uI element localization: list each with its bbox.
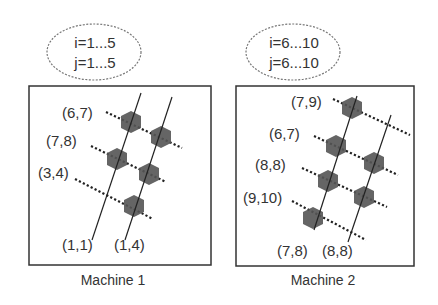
- point-label: (8,8): [255, 156, 286, 173]
- point-label: (6,7): [269, 125, 300, 142]
- solid-line: [92, 93, 141, 240]
- point-label: (7,8): [46, 132, 77, 149]
- solid-line: [348, 115, 391, 242]
- range-i-1: i=1...5: [74, 34, 115, 51]
- hexagon-node: [342, 97, 362, 119]
- point-label: (1,1): [62, 236, 93, 253]
- diagram-canvas: i=1...5 j=1...5 (6,7) (7,8) (3,4) (1,1) …: [0, 0, 438, 305]
- point-label: (9,10): [243, 189, 282, 206]
- point-label: (3,4): [38, 164, 69, 181]
- point-label: (7,9): [291, 93, 322, 110]
- machine-2: i=6...10 j=6...10 (7,9) (6,7) (8,8) (9,1…: [236, 24, 414, 288]
- point-label: (6,7): [62, 104, 93, 121]
- range-ellipse-2: [246, 24, 340, 80]
- range-j-1: j=1...5: [73, 54, 115, 71]
- solid-line: [314, 96, 357, 230]
- point-label: (7,8): [277, 242, 308, 259]
- hexagon-node: [364, 152, 384, 174]
- range-i-2: i=6...10: [269, 34, 319, 51]
- hexagon-node: [318, 170, 338, 192]
- range-j-2: j=6...10: [268, 54, 319, 71]
- machine-caption-2: Machine 2: [291, 272, 356, 288]
- point-label: (1,4): [114, 236, 145, 253]
- point-label: (8,8): [322, 242, 353, 259]
- machine-1: i=1...5 j=1...5 (6,7) (7,8) (3,4) (1,1) …: [29, 24, 211, 288]
- machine-caption-1: Machine 1: [81, 272, 146, 288]
- hexagon-node: [354, 186, 374, 208]
- range-ellipse-1: [47, 24, 141, 80]
